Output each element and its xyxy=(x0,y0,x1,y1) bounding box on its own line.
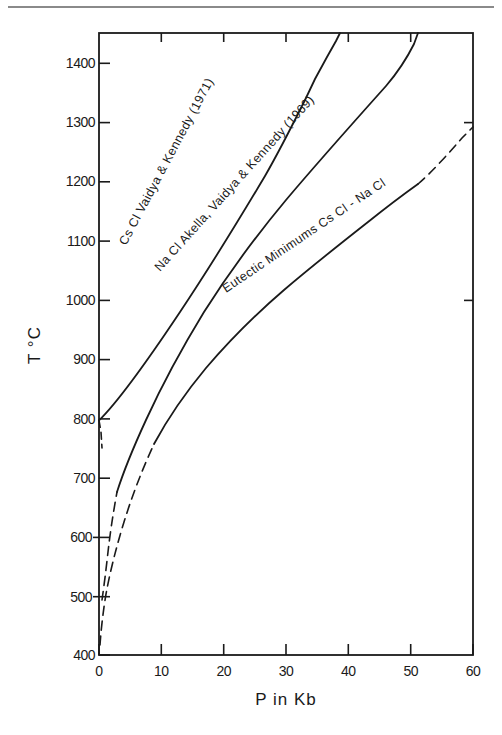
series-eutectic-minimums-curve xyxy=(100,127,473,645)
y-tick-label-600: 600 xyxy=(70,529,93,545)
x-tick-label-0: 0 xyxy=(95,663,103,679)
y-axis-ticks xyxy=(93,63,110,655)
x-tick-label-30: 30 xyxy=(279,663,294,679)
y-tick-label-900: 900 xyxy=(73,351,96,367)
y-axis-tick-labels: 1400 1300 1200 1100 1000 900 800 700 600… xyxy=(66,55,96,663)
y-tick-label-1200: 1200 xyxy=(66,173,96,189)
x-tick-label-20: 20 xyxy=(216,663,231,679)
x-axis-tick-labels: 0 10 20 30 40 50 60 xyxy=(95,663,481,679)
curve-label-eutectic: Eutectic Minimums Cs Cl - Na Cl xyxy=(220,176,388,296)
y-tick-label-1100: 1100 xyxy=(67,233,96,249)
phase-diagram-svg: 1400 1300 1200 1100 1000 900 800 700 600… xyxy=(0,0,502,735)
x-tick-label-50: 50 xyxy=(403,663,418,679)
y-axis-right-ticks xyxy=(464,123,473,301)
y-tick-label-700: 700 xyxy=(73,470,96,486)
x-axis-title: P in Kb xyxy=(255,690,317,709)
y-tick-label-1300: 1300 xyxy=(66,114,96,130)
y-tick-label-400: 400 xyxy=(73,647,96,663)
y-tick-label-800: 800 xyxy=(73,411,96,427)
y-axis-title: T °C xyxy=(25,326,44,364)
figure-container: 1400 1300 1200 1100 1000 900 800 700 600… xyxy=(0,0,502,735)
eutectic-curve-dashed-low-pressure xyxy=(100,444,154,645)
page-header-rule xyxy=(8,6,494,8)
x-tick-label-10: 10 xyxy=(154,663,169,679)
x-axis-top-ticks xyxy=(161,33,410,42)
x-tick-label-40: 40 xyxy=(341,663,356,679)
eutectic-curve-dashed-high-pressure xyxy=(418,127,473,184)
nacl-curve-dashed-low-pressure xyxy=(102,492,117,600)
series-nacl-melting-curve xyxy=(102,33,418,600)
y-tick-label-500: 500 xyxy=(70,589,93,605)
x-axis-ticks xyxy=(99,644,473,655)
y-tick-label-1400: 1400 xyxy=(66,55,96,71)
x-tick-label-60: 60 xyxy=(466,663,481,679)
y-tick-label-1000: 1000 xyxy=(66,292,96,308)
